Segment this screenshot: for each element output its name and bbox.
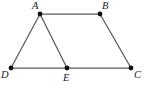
vertex-label-b: B — [102, 1, 108, 12]
edge-a-e — [40, 14, 67, 68]
vertex-point-e — [65, 66, 70, 71]
vertex-label-e: E — [63, 73, 69, 84]
vertex-point-c — [129, 66, 134, 71]
vertex-label-d: D — [1, 70, 9, 81]
vertex-point-b — [98, 12, 103, 17]
edge-a-d — [11, 14, 40, 68]
edges-group — [11, 14, 131, 68]
vertex-label-c: C — [134, 70, 141, 81]
edge-b-c — [100, 14, 131, 68]
figure-canvas — [0, 0, 151, 89]
vertex-point-d — [9, 66, 14, 71]
geometry-figure: ABCDE — [0, 0, 151, 89]
vertices-group — [9, 12, 134, 71]
vertex-label-a: A — [32, 1, 38, 12]
vertex-point-a — [38, 12, 43, 17]
